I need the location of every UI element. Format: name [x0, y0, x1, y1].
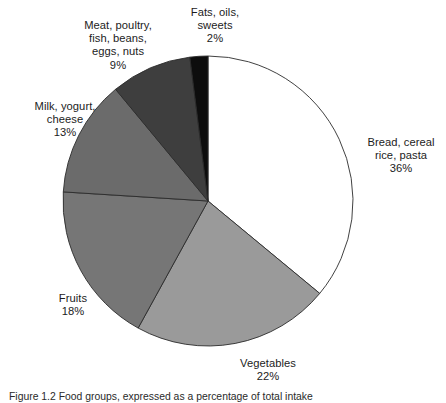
slice-label-fats: Fats, oils,sweets2% [167, 6, 263, 46]
slice-label-milk: Milk, yogurt,cheese13% [11, 100, 119, 140]
slice-label-line: 2% [167, 32, 263, 45]
slice-label-line: 18% [36, 305, 110, 318]
slice-label-line: sweets [167, 19, 263, 32]
slice-label-line: Meat, poultry, [57, 19, 179, 32]
slice-label-line: Milk, yogurt, [11, 100, 119, 113]
slice-label-line: eggs, nuts [57, 45, 179, 58]
figure-caption: Figure 1.2 Food groups, expressed as a p… [9, 391, 439, 403]
slice-label-bread: Bread, cerealrice, pasta36% [355, 136, 446, 176]
slice-label-line: Vegetables [216, 357, 320, 370]
slice-label-line: 36% [355, 162, 446, 175]
slice-label-line: fish, beans, [57, 32, 179, 45]
slice-label-vegetables: Vegetables22% [216, 357, 320, 383]
slice-label-line: Bread, cereal [355, 136, 446, 149]
slice-label-line: Fruits [36, 292, 110, 305]
slice-label-line: 9% [57, 59, 179, 72]
slice-label-fruits: Fruits18% [36, 292, 110, 318]
slice-label-line: cheese [11, 113, 119, 126]
slice-label-meat: Meat, poultry,fish, beans,eggs, nuts9% [57, 19, 179, 72]
slice-label-line: 13% [11, 126, 119, 139]
slice-label-line: 22% [216, 370, 320, 383]
slice-label-line: Fats, oils, [167, 6, 263, 19]
slice-label-line: rice, pasta [355, 149, 446, 162]
